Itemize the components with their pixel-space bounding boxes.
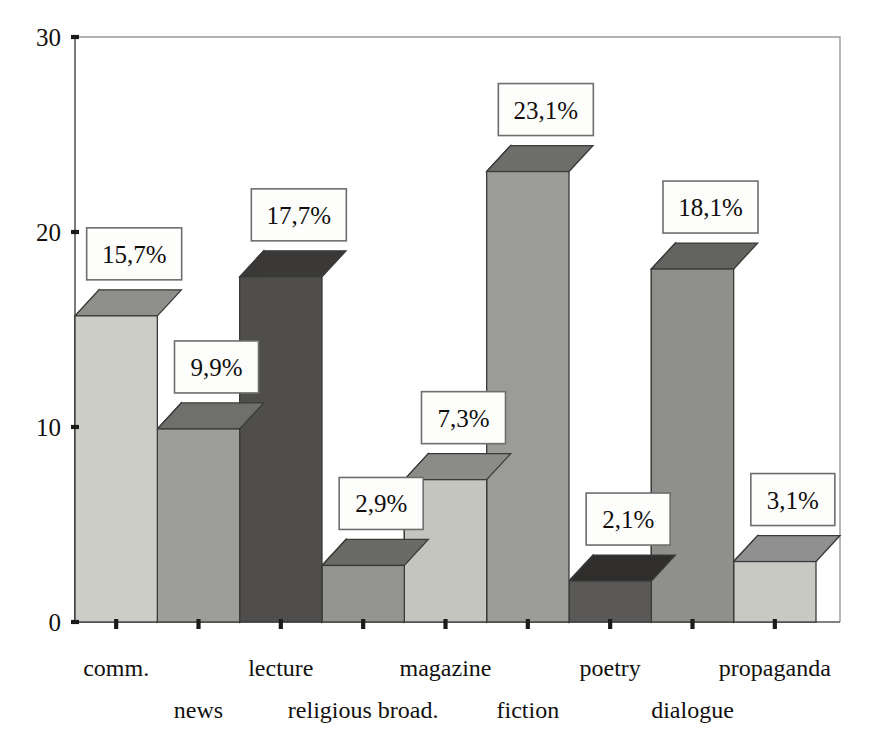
value-label-text: 2,1% (602, 506, 654, 533)
value-label-text: 17,7% (267, 202, 332, 229)
bar-front-face (157, 429, 239, 622)
category-label-poetry: poetry (580, 655, 641, 681)
value-label-propaganda: 3,1% (751, 474, 835, 526)
bar-top-face (75, 290, 181, 316)
bar-fiction (487, 146, 593, 622)
bar-front-face (75, 316, 157, 622)
category-label-propaganda: propaganda (719, 655, 831, 681)
bar-front-face (734, 562, 816, 622)
value-label-dialogue: 18,1% (663, 181, 758, 233)
bar-propaganda (734, 536, 840, 622)
category-label-dialogue: dialogue (651, 697, 734, 723)
bar-top-face (651, 243, 757, 269)
value-label-text: 15,7% (102, 241, 167, 268)
y-tick-label: 20 (36, 219, 61, 246)
value-label-poetry: 2,1% (586, 493, 670, 545)
y-tick-label: 0 (49, 609, 62, 636)
value-label-text: 3,1% (767, 487, 819, 514)
value-label-text: 23,1% (514, 97, 579, 124)
bar-top-face (240, 251, 346, 277)
bar-chart: 0102030comm.newslecturereligious broad.m… (0, 0, 882, 739)
chart-canvas: 0102030comm.newslecturereligious broad.m… (0, 0, 882, 739)
y-tick-label: 10 (36, 414, 61, 441)
value-label-text: 9,9% (190, 354, 242, 381)
value-label-lecture: 17,7% (251, 189, 346, 241)
value-label-text: 2,9% (355, 490, 407, 517)
value-label-text: 7,3% (437, 405, 489, 432)
category-label-religious-broad: religious broad. (288, 697, 439, 723)
category-label-fiction: fiction (497, 697, 560, 723)
category-label-lecture: lecture (248, 655, 313, 681)
bar-front-face (322, 565, 404, 622)
category-label-comm: comm. (83, 655, 149, 681)
value-label-magazine: 7,3% (422, 392, 506, 444)
value-label-fiction: 23,1% (498, 84, 593, 136)
category-label-news: news (174, 697, 223, 723)
bar-top-face (734, 536, 840, 562)
value-label-religious-broad: 2,9% (339, 477, 423, 529)
bar-top-face (487, 146, 593, 172)
bar-front-face (569, 581, 651, 622)
y-tick-label: 30 (36, 24, 61, 51)
value-label-text: 18,1% (678, 194, 743, 221)
value-label-comm: 15,7% (87, 228, 182, 280)
category-label-magazine: magazine (400, 655, 492, 681)
value-label-news: 9,9% (175, 341, 259, 393)
bar-front-face (240, 277, 322, 622)
bar-front-face (651, 269, 733, 622)
